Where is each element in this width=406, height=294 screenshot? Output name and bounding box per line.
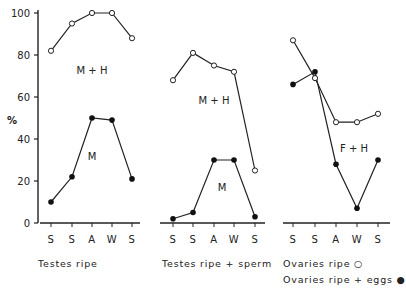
series-annotation: M + H xyxy=(77,65,108,76)
x-tick-label: W xyxy=(107,234,117,245)
x-tick-label: S xyxy=(190,234,197,245)
y-tick-label: 80 xyxy=(17,50,30,61)
open-marker xyxy=(231,69,236,74)
open-marker xyxy=(375,111,380,116)
open-marker xyxy=(290,38,295,43)
open-marker xyxy=(252,168,257,173)
open-marker xyxy=(333,120,338,125)
filled-marker xyxy=(333,161,339,167)
open-marker xyxy=(69,21,74,26)
filled-marker xyxy=(211,157,217,163)
series-line xyxy=(173,53,255,171)
x-tick-label: S xyxy=(129,234,136,245)
x-tick-label: S xyxy=(48,234,55,245)
filled-marker xyxy=(231,157,237,163)
open-marker xyxy=(211,63,216,68)
series-line xyxy=(293,40,378,122)
open-marker xyxy=(354,120,359,125)
x-tick-label: A xyxy=(88,234,95,245)
filled-marker xyxy=(69,174,75,180)
filled-marker xyxy=(312,69,318,75)
y-tick-label: 20 xyxy=(17,176,30,187)
series-annotation: M xyxy=(218,182,227,193)
legend-ovaries-ripe: Ovaries ripe ○ xyxy=(283,258,363,269)
x-tick-label: A xyxy=(332,234,339,245)
open-marker xyxy=(170,78,175,83)
x-tick-label: S xyxy=(69,234,76,245)
series-annotation: M + H xyxy=(199,95,230,106)
x-tick-label: A xyxy=(210,234,217,245)
series-annotation: F + H xyxy=(340,143,368,154)
filled-marker xyxy=(109,117,115,123)
open-marker xyxy=(48,48,53,53)
x-tick-label: S xyxy=(290,234,297,245)
filled-marker xyxy=(354,206,360,212)
y-tick-label: 60 xyxy=(17,92,30,103)
open-marker xyxy=(312,76,317,81)
filled-marker xyxy=(252,214,258,220)
x-tick-label: W xyxy=(352,234,362,245)
y-tick-label: 100 xyxy=(11,8,30,19)
open-marker xyxy=(89,10,94,15)
filled-marker xyxy=(375,157,381,163)
filled-marker xyxy=(190,210,196,216)
y-axis-label: % xyxy=(7,115,17,126)
series-line xyxy=(293,72,378,209)
open-marker xyxy=(109,10,114,15)
open-marker xyxy=(129,36,134,41)
open-marker xyxy=(190,50,195,55)
x-tick-label: S xyxy=(375,234,382,245)
filled-marker xyxy=(48,199,54,205)
x-tick-label: W xyxy=(229,234,239,245)
panel1-caption: Testes ripe xyxy=(38,258,98,269)
series-line xyxy=(51,13,132,51)
filled-marker xyxy=(290,82,296,88)
y-tick-label: 0 xyxy=(24,218,30,229)
legend-ovaries-ripe-eggs: Ovaries ripe + eggs ● xyxy=(283,274,406,285)
series-line xyxy=(173,160,255,219)
filled-marker xyxy=(129,176,135,182)
filled-marker xyxy=(89,115,95,121)
x-tick-label: S xyxy=(252,234,259,245)
filled-marker xyxy=(170,216,176,222)
panel2-caption: Testes ripe + sperm xyxy=(162,258,272,269)
x-tick-label: S xyxy=(170,234,177,245)
x-tick-label: S xyxy=(312,234,319,245)
series-annotation: M xyxy=(88,151,97,162)
y-tick-label: 40 xyxy=(17,134,30,145)
